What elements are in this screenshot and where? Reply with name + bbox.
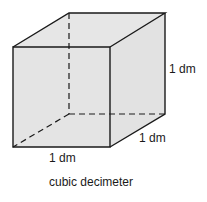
- diagram-caption: cubic decimeter: [49, 176, 133, 188]
- width-label: 1 dm: [49, 152, 76, 164]
- cube-front-face: [13, 47, 110, 147]
- height-label: 1 dm: [169, 63, 196, 75]
- depth-label: 1 dm: [139, 132, 166, 144]
- cube-diagram: [0, 0, 207, 202]
